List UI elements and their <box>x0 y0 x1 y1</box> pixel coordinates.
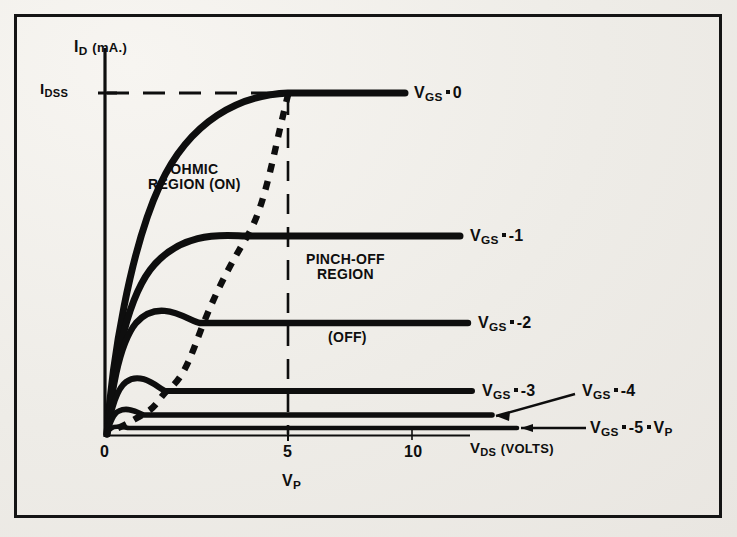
curve-label-vgs-1-value: -1 <box>509 227 524 244</box>
equals-glyph-icon <box>622 425 626 429</box>
curve-label-vgs-1-main: V <box>470 227 481 244</box>
curve-vgs-1 <box>107 235 460 434</box>
equals-glyph-icon <box>502 233 506 237</box>
pinch-off-region-annotation: PINCH-OFF REGION <box>306 252 385 282</box>
curve-label-vgs-2-value: -2 <box>517 314 532 331</box>
equals-glyph-icon <box>510 320 514 324</box>
ohmic-region-line1: OHMIC <box>148 162 241 177</box>
y-axis-label-unit: (mA.) <box>92 40 127 55</box>
y-axis-label-sub: D <box>79 44 88 58</box>
curve-label-vgs-5-extra-sub: P <box>665 425 673 439</box>
curve-label-vgs-1: VGS-1 <box>470 227 524 247</box>
curve-label-vgs-5-sub: GS <box>601 425 619 439</box>
pinch-off-region-line2: REGION <box>306 267 385 282</box>
curve-label-vgs-3-value: -3 <box>521 382 536 399</box>
x-axis-label-sub: DS <box>480 446 496 458</box>
x-tick-label-10: 10 <box>404 443 422 460</box>
x-tick-label-5: 5 <box>283 443 292 460</box>
off-region-annotation: (OFF) <box>328 330 367 345</box>
curve-label-vgs-3: VGS-3 <box>482 382 536 402</box>
y-axis-label: ID (mA.) <box>74 38 127 58</box>
x-tick-label-0: 0 <box>100 443 109 460</box>
equals-glyph-icon <box>614 388 618 392</box>
curve-label-vgs-4-main: V <box>582 382 593 399</box>
x-axis-label-main: V <box>470 439 480 456</box>
x-axis-label: VDS (VOLTS) <box>470 440 554 459</box>
x-axis-label-unit: (VOLTS) <box>501 441 554 456</box>
curve-label-vgs-3-sub: GS <box>493 388 511 402</box>
x-tick-label-vp-sub: P <box>293 478 301 492</box>
curve-label-vgs-0-value: 0 <box>453 84 462 101</box>
curve-label-vgs-4-value: -4 <box>621 382 636 399</box>
y-tick-label-idss: IDSS <box>40 81 68 100</box>
x-tick-label-vp: VP <box>282 472 301 492</box>
leader-arrowhead-vgs-5 <box>521 424 533 432</box>
curve-label-vgs-1-sub: GS <box>481 233 499 247</box>
curve-label-vgs-2-sub: GS <box>489 320 507 334</box>
curve-label-vgs-2-main: V <box>478 314 489 331</box>
ohmic-region-line2: REGION (ON) <box>148 177 241 192</box>
ohmic-region-annotation: OHMIC REGION (ON) <box>148 162 241 192</box>
curve-label-vgs-5-value: -5 <box>629 419 644 436</box>
curve-vgs-5-vp <box>107 427 517 434</box>
figure-page: ID (mA.) IDSS 0 5 10 VP VDS (VOLTS) OHMI… <box>0 0 737 537</box>
curve-label-vgs-4: VGS-4 <box>582 382 636 402</box>
y-tick-label-idss-sub: DSS <box>44 87 68 99</box>
equals-glyph-icon <box>446 90 450 94</box>
equals-glyph-icon <box>647 425 651 429</box>
x-tick-label-vp-main: V <box>282 472 293 489</box>
curve-label-vgs-5: VGS-5VP <box>590 419 673 439</box>
curve-label-vgs-0-sub: GS <box>425 90 443 104</box>
curve-vgs-3 <box>107 378 472 434</box>
curve-label-vgs-2: VGS-2 <box>478 314 532 334</box>
curve-label-vgs-4-sub: GS <box>593 388 611 402</box>
curve-label-vgs-0: VGS0 <box>414 84 462 104</box>
pinch-off-region-line1: PINCH-OFF <box>306 252 385 267</box>
curve-vgs-4 <box>107 409 492 434</box>
equals-glyph-icon <box>514 388 518 392</box>
curve-label-vgs-3-main: V <box>482 382 493 399</box>
curve-label-vgs-5-main: V <box>590 419 601 436</box>
curve-label-vgs-5-extra-main: V <box>654 419 665 436</box>
curve-label-vgs-0-main: V <box>414 84 425 101</box>
